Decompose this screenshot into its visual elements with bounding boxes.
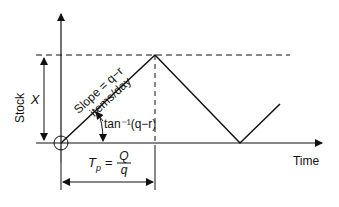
tp-denominator: q [121,163,128,177]
tp-formula: T p = Q q [88,149,131,177]
max-stock-label: X [30,92,41,107]
y-axis-label: Stock [13,92,27,123]
x-axis-label: Time [293,154,320,168]
tp-numerator: Q [119,149,128,163]
tp-equals: = [105,155,113,170]
inventory-diagram: Stock X Time Slope = q−r items/day tan⁻¹… [0,0,339,207]
angle-label: tan⁻¹(q−r) [104,117,156,131]
tp-subscript: p [95,163,101,173]
